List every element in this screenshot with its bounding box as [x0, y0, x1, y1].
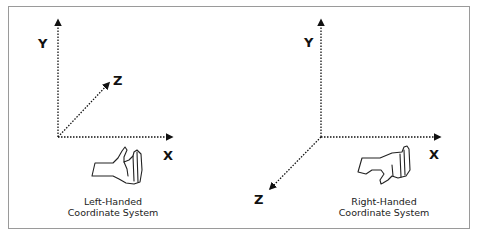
right-coordinate-system [270, 20, 440, 189]
left-caption: Left-Handed Coordinate System [53, 196, 173, 218]
left-z-label: Z [113, 74, 122, 87]
left-caption-line1: Left-Handed [53, 196, 173, 207]
right-y-label: Y [304, 36, 313, 49]
left-hand-icon [92, 147, 142, 184]
right-caption-line1: Right-Handed [324, 196, 444, 207]
right-caption: Right-Handed Coordinate System [324, 196, 444, 218]
left-z-axis [58, 83, 109, 137]
left-y-label: Y [38, 37, 47, 50]
right-z-axis [270, 137, 321, 189]
right-hand-icon [358, 146, 410, 184]
left-caption-line2: Coordinate System [53, 207, 173, 218]
left-x-label: X [163, 149, 173, 162]
left-coordinate-system [58, 20, 172, 184]
right-caption-line2: Coordinate System [324, 207, 444, 218]
right-x-label: X [429, 148, 439, 161]
right-z-label: Z [254, 193, 263, 206]
